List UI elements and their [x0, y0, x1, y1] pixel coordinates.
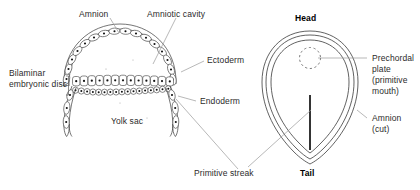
- leader-amnion-cut: [357, 110, 367, 118]
- label-yolk-sac: Yolk sac: [111, 116, 143, 127]
- label-amnion-cut-line1: Amnion: [372, 113, 401, 124]
- label-prechordal-plate-line1: Prechordal: [372, 53, 414, 64]
- label-primitive-streak: Primitive streak: [194, 168, 254, 179]
- embryology-diagram: Amnion Amniotic cavity Ectoderm Endoderm…: [0, 0, 420, 190]
- label-endoderm: Endoderm: [200, 96, 240, 107]
- label-head: Head: [295, 13, 316, 24]
- label-prechordal-plate-line4: mouth): [372, 86, 399, 97]
- dorsal-view-group: [262, 31, 358, 164]
- label-ectoderm: Ectoderm: [207, 55, 244, 66]
- label-amnion: Amnion: [79, 9, 108, 20]
- label-amniotic-cavity: Amniotic cavity: [147, 9, 205, 20]
- label-bilaminar-disc-line2: embryonic disc: [9, 79, 67, 90]
- prechordal-plate-circle: [300, 48, 321, 69]
- endoderm-layer: [73, 86, 172, 96]
- leader-primitive-streak-left: [176, 99, 238, 169]
- label-bilaminar-disc-line1: Bilaminar: [9, 68, 45, 79]
- ectoderm-layer: [73, 75, 174, 86]
- label-prechordal-plate-line3: (primitive: [372, 75, 407, 86]
- diagram-canvas: [0, 0, 420, 190]
- leader-endoderm: [178, 96, 196, 101]
- label-amnion-cut-line2: (cut): [372, 124, 390, 135]
- label-prechordal-plate-line2: plate: [372, 64, 391, 75]
- label-tail: Tail: [300, 168, 314, 179]
- leader-ectoderm: [181, 61, 204, 72]
